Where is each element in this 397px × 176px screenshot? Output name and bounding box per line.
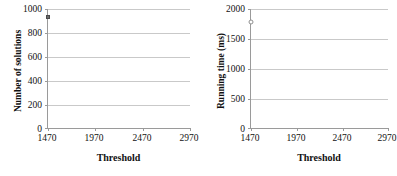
x-axis-tick-labels: 1470 1970 2470 2970 [47,133,190,145]
x-axis-tick-labels: 1470 1970 2470 2970 [250,133,388,145]
y-tick-label: 1000 [23,4,42,14]
gridline [48,33,190,34]
y-tick-label: 1500 [226,34,245,44]
y-tick-label: 1000 [226,64,245,74]
y-axis-tick-labels: 1000 800 600 400 200 0 [18,9,44,129]
x-tick-label: 2970 [180,133,199,144]
y-tick-mark [248,9,251,10]
y-tick-mark [45,105,48,106]
x-tick-label: 2970 [378,133,397,144]
y-tick-mark [45,33,48,34]
y-tick-mark [248,99,251,100]
x-tick-mark [251,128,252,131]
x-tick-label: 1970 [85,133,104,144]
x-tick-label: 2470 [333,133,352,144]
x-tick-mark [190,128,191,131]
x-tick-label: 1970 [287,133,306,144]
data-point-marker [46,15,50,19]
gridline [251,69,388,70]
gridline [251,99,388,100]
y-tick-mark [248,69,251,70]
gridline [48,9,190,10]
gridline [48,105,190,106]
x-tick-mark [297,128,298,131]
x-tick-mark [343,128,344,131]
gridline [48,57,190,58]
x-tick-mark [48,128,49,131]
x-axis-title: Threshold [47,152,190,165]
x-axis-title: Threshold [250,152,388,165]
y-tick-mark [248,39,251,40]
data-point-marker [249,20,254,25]
y-tick-label: 400 [28,76,42,86]
gridline [48,81,190,82]
x-tick-label: 1470 [38,133,57,144]
x-tick-mark [388,128,389,131]
y-tick-label: 2000 [226,4,245,14]
x-tick-label: 1470 [241,133,260,144]
plot-area [250,9,388,129]
y-tick-mark [45,9,48,10]
y-tick-label: 800 [28,28,42,38]
chart-panel-number-of-solutions: Number of solutions 1000 800 600 400 200… [0,0,197,176]
plot-area [47,9,190,129]
y-tick-label: 600 [28,52,42,62]
y-axis-tick-labels: 2000 1500 1000 500 0 [221,9,247,129]
y-tick-mark [45,57,48,58]
y-tick-label: 200 [28,100,42,110]
x-tick-mark [143,128,144,131]
gridline [251,9,388,10]
gridline [251,39,388,40]
y-tick-label: 500 [231,94,245,104]
x-tick-mark [95,128,96,131]
y-tick-mark [45,81,48,82]
chart-panel-running-time: Running time (ms) 2000 1500 1000 500 0 [198,0,395,176]
x-tick-label: 2470 [133,133,152,144]
